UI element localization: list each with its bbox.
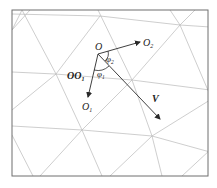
label-o2: O2 [143, 37, 153, 49]
vector-oo2 [98, 42, 140, 54]
label-origin: O [95, 41, 102, 52]
label-o1: O1 [82, 101, 92, 113]
label-phi2: φ2 [106, 54, 114, 65]
mesh-vector-diagram: O O2 φ2 φ1 OO1 O1 V [0, 0, 217, 188]
label-phi1: φ1 [97, 69, 105, 80]
label-oo1: OO1 [67, 70, 84, 82]
triangular-mesh [12, 10, 210, 176]
label-v: V [152, 93, 160, 104]
